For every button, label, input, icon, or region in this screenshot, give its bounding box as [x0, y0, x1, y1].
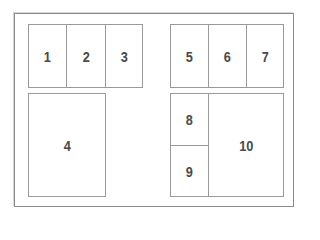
panel-label: 7 — [261, 48, 268, 65]
panel-label: 6 — [224, 48, 231, 65]
panel-6: 6 — [208, 24, 247, 88]
panel-10: 10 — [208, 93, 284, 197]
panel-3: 3 — [105, 24, 143, 88]
panel-label: 8 — [186, 111, 193, 128]
panel-8: 8 — [170, 93, 209, 146]
panel-4: 4 — [28, 93, 106, 197]
panel-9: 9 — [170, 145, 209, 197]
panel-label: 1 — [44, 48, 51, 65]
panel-label: 3 — [120, 48, 127, 65]
panel-label: 9 — [186, 163, 193, 180]
panel-5: 5 — [170, 24, 209, 88]
panel-7: 7 — [246, 24, 284, 88]
panel-label: 2 — [82, 48, 89, 65]
panel-2: 2 — [66, 24, 106, 88]
panel-1: 1 — [28, 24, 67, 88]
panel-label: 5 — [186, 48, 193, 65]
panel-label: 4 — [63, 137, 70, 154]
panel-label: 10 — [239, 137, 253, 154]
